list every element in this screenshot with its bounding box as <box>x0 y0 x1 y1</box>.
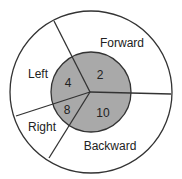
value-right: 8 <box>64 103 71 117</box>
value-forward: 2 <box>97 68 104 82</box>
direction-diagram: Forward Left Right Backward 2 4 8 10 <box>0 0 182 179</box>
value-left: 4 <box>65 76 72 90</box>
label-forward: Forward <box>100 36 144 50</box>
label-right: Right <box>28 120 57 134</box>
label-backward: Backward <box>84 139 137 153</box>
value-backward: 10 <box>96 106 110 120</box>
label-left: Left <box>28 67 49 81</box>
